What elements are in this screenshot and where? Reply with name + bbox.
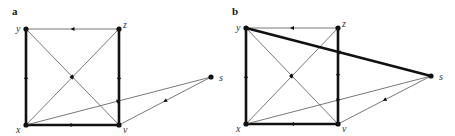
graph-diagram: ayzxvsbyzxvs xyxy=(0,0,455,136)
node-z xyxy=(335,25,340,30)
panel-b: byzxvs xyxy=(232,5,443,134)
node-label-v: v xyxy=(123,124,128,135)
arrow-icon xyxy=(24,75,28,79)
node-y xyxy=(243,25,248,30)
node-x xyxy=(23,122,28,127)
arrow-icon xyxy=(336,74,340,78)
node-y xyxy=(23,26,28,31)
node-s xyxy=(208,74,213,79)
node-label-z: z xyxy=(122,19,127,30)
arrow-icon xyxy=(71,27,75,31)
arrow-icon xyxy=(290,26,294,30)
node-label-x: x xyxy=(235,123,241,134)
node-label-s: s xyxy=(439,71,443,82)
node-v xyxy=(116,122,121,127)
arrow-icon xyxy=(244,74,248,78)
node-label-z: z xyxy=(341,18,346,29)
node-label-x: x xyxy=(15,124,21,135)
node-s xyxy=(428,73,433,78)
node-label-y: y xyxy=(235,22,241,33)
node-label-v: v xyxy=(342,123,347,134)
arrow-icon xyxy=(290,122,294,126)
arrow-icon xyxy=(117,75,121,79)
node-z xyxy=(116,26,121,31)
node-label-s: s xyxy=(219,72,223,83)
node-label-y: y xyxy=(15,23,21,34)
panel-a: ayzxvs xyxy=(12,5,223,135)
panel-label: a xyxy=(12,5,18,17)
arrow-icon xyxy=(71,123,75,127)
panel-label: b xyxy=(232,5,238,17)
node-x xyxy=(243,121,248,126)
node-v xyxy=(335,121,340,126)
